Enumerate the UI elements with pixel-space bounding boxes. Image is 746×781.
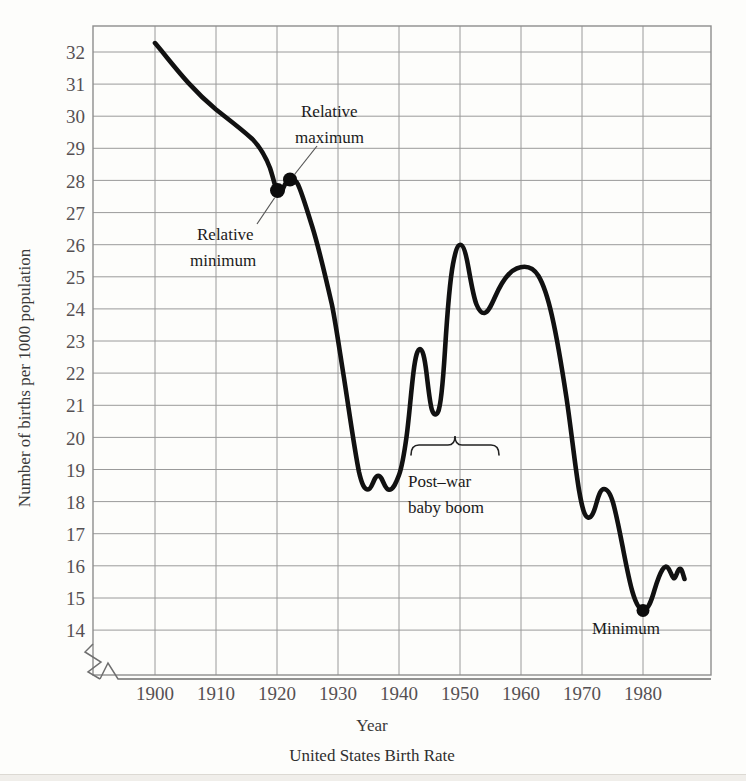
relative-maximum-line1: Relative (301, 102, 358, 121)
relative-minimum-line1: Relative (197, 225, 254, 244)
axis-break-marks (85, 644, 711, 679)
x-tick-1920: 1920 (258, 683, 296, 704)
baby-boom-line1: Post–war (408, 472, 472, 491)
data-curve (155, 43, 685, 610)
birth-rate-chart: 32 31 30 29 28 27 26 25 24 23 22 21 20 1… (0, 0, 746, 781)
x-tick-1910: 1910 (197, 683, 235, 704)
x-tick-labels: 1900 1910 1920 1930 1940 1950 1960 1970 … (136, 683, 662, 704)
y-axis-title: Number of births per 1000 population (15, 248, 34, 507)
x-tick-1900: 1900 (136, 683, 174, 704)
x-tick-1940: 1940 (380, 683, 418, 704)
minimum-label: Minimum (592, 619, 660, 638)
page-bottom-rule (0, 774, 746, 781)
y-tick-27: 27 (66, 203, 85, 224)
y-tick-32: 32 (66, 42, 85, 63)
y-tick-23: 23 (66, 331, 85, 352)
baby-boom-line2: baby boom (408, 498, 484, 517)
x-tick-1970: 1970 (563, 683, 601, 704)
figure-page: 32 31 30 29 28 27 26 25 24 23 22 21 20 1… (0, 0, 746, 781)
y-tick-17: 17 (66, 524, 85, 545)
plot-frame (93, 26, 711, 675)
y-tick-18: 18 (66, 492, 85, 513)
y-gridlines (93, 52, 711, 630)
relative-minimum-annotation: Relative minimum (190, 225, 256, 270)
x-tick-1980: 1980 (624, 683, 662, 704)
y-tick-21: 21 (66, 395, 85, 416)
y-tick-30: 30 (66, 106, 85, 127)
x-tick-1950: 1950 (441, 683, 479, 704)
y-tick-20: 20 (66, 428, 85, 449)
relative-maximum-leader (295, 146, 318, 175)
x-gridlines (155, 26, 643, 675)
y-tick-16: 16 (66, 556, 85, 577)
relative-maximum-line2: maximum (295, 128, 364, 147)
baby-boom-brace (411, 436, 499, 455)
y-tick-labels: 32 31 30 29 28 27 26 25 24 23 22 21 20 1… (66, 42, 86, 641)
relative-maximum-annotation: Relative maximum (295, 102, 364, 147)
figure-title: United States Birth Rate (289, 746, 455, 765)
baby-boom-annotation: Post–war baby boom (408, 436, 499, 517)
y-tick-22: 22 (66, 363, 85, 384)
x-tick-1930: 1930 (319, 683, 357, 704)
y-tick-29: 29 (66, 138, 85, 159)
y-tick-24: 24 (66, 299, 86, 320)
relative-minimum-line2: minimum (190, 251, 256, 270)
y-tick-15: 15 (66, 588, 85, 609)
relative-minimum-dot (270, 183, 285, 198)
y-tick-19: 19 (66, 460, 85, 481)
x-axis-title: Year (356, 716, 388, 735)
relative-minimum-leader (257, 198, 275, 224)
y-tick-14: 14 (66, 620, 86, 641)
y-tick-26: 26 (66, 235, 85, 256)
y-tick-28: 28 (66, 171, 85, 192)
x-tick-1960: 1960 (502, 683, 540, 704)
y-tick-25: 25 (66, 267, 85, 288)
minimum-dot (637, 604, 650, 617)
y-tick-31: 31 (66, 74, 85, 95)
